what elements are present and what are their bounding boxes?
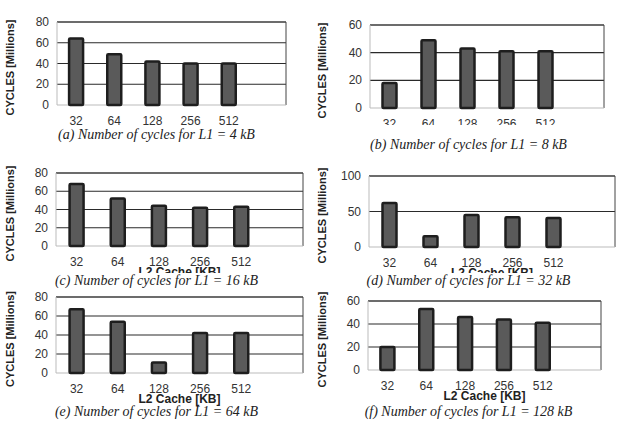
x-tick-label: 512 <box>231 382 251 396</box>
bar-chart-a: 0204060803264128256512CYCLES [Millions]L… <box>0 0 313 125</box>
bar-256 <box>184 64 198 106</box>
chart-panel-a: 0204060803264128256512CYCLES [Millions]L… <box>0 0 313 143</box>
y-tick-label: 0 <box>41 366 48 380</box>
chart-panel-d: 0501003264128256512CYCLES [Millions]L2 C… <box>312 153 625 296</box>
chart-panel-c: 0204060803264128256512CYCLES [Millions]L… <box>0 153 313 296</box>
x-tick-label: 64 <box>108 114 122 125</box>
bar-64 <box>107 54 121 105</box>
x-tick-label: 64 <box>424 256 438 270</box>
x-tick-label: 32 <box>383 117 397 125</box>
bar-chart-f: 02040603264128256512CYCLES [Millions]L2 … <box>312 287 625 407</box>
x-tick-label: 512 <box>535 117 555 125</box>
y-axis-label: CYCLES [Millions] <box>4 19 16 115</box>
y-tick-label: 0 <box>354 240 361 254</box>
x-tick-label: 64 <box>111 255 125 269</box>
y-tick-label: 80 <box>36 15 50 29</box>
y-tick-label: 0 <box>355 101 362 115</box>
bar-chart-c: 0204060803264128256512CYCLES [Millions]L… <box>0 153 313 273</box>
bar-32 <box>383 83 397 108</box>
y-tick-label: 80 <box>35 290 49 304</box>
y-tick-label: 60 <box>35 184 49 198</box>
bar-32 <box>383 203 397 247</box>
x-tick-label: 32 <box>69 114 83 125</box>
y-tick-label: 40 <box>349 46 363 60</box>
bar-512 <box>234 207 248 246</box>
x-tick-label: 64 <box>420 379 434 393</box>
bar-128 <box>458 317 472 370</box>
x-tick-label: 256 <box>496 117 516 125</box>
y-tick-label: 40 <box>36 57 50 71</box>
bar-512 <box>222 64 236 106</box>
y-tick-label: 20 <box>35 221 49 235</box>
bar-256 <box>193 333 207 373</box>
y-axis-label: CYCLES [Millions] <box>4 165 16 261</box>
x-tick-label: 512 <box>533 379 553 393</box>
bar-32 <box>380 347 394 370</box>
y-tick-label: 20 <box>36 77 50 91</box>
y-tick-label: 50 <box>348 205 362 219</box>
chart-panel-b: 02040603264128256512CYCLES [Millions]L2 … <box>312 0 625 143</box>
bar-64 <box>111 199 125 246</box>
x-axis-label: L2 Cache [KB] <box>130 124 212 125</box>
y-tick-label: 0 <box>41 239 48 253</box>
y-tick-label: 20 <box>35 347 49 361</box>
y-tick-label: 20 <box>349 73 363 87</box>
bar-64 <box>111 322 125 373</box>
y-tick-label: 0 <box>42 98 49 112</box>
bar-256 <box>193 208 207 246</box>
bar-64 <box>424 236 438 247</box>
x-tick-label: 512 <box>219 114 239 125</box>
chart-caption-b: (b) Number of cycles for L1 = 8 kB <box>312 137 625 153</box>
bar-256 <box>506 217 520 247</box>
chart-panel-e: 0204060803264128256512CYCLES [Millions]L… <box>0 287 313 430</box>
x-axis-label: L2 Cache [KB] <box>138 265 220 273</box>
y-tick-label: 60 <box>36 36 50 50</box>
bar-512 <box>539 51 553 108</box>
y-tick-label: 40 <box>35 328 49 342</box>
x-tick-label: 512 <box>543 256 563 270</box>
bar-chart-e: 0204060803264128256512CYCLES [Millions]L… <box>0 287 313 407</box>
bar-64 <box>419 309 433 370</box>
bar-128 <box>152 206 166 246</box>
bar-64 <box>422 40 436 108</box>
bar-128 <box>465 215 479 247</box>
y-tick-label: 60 <box>35 309 49 323</box>
bar-128 <box>145 61 159 105</box>
y-tick-label: 40 <box>347 317 361 331</box>
y-tick-label: 40 <box>35 203 49 217</box>
chart-caption-e: (e) Number of cycles for L1 = 64 kB <box>0 404 313 420</box>
y-tick-label: 80 <box>35 166 49 180</box>
x-tick-label: 64 <box>111 382 125 396</box>
bar-256 <box>497 319 511 370</box>
bar-chart-d: 0501003264128256512CYCLES [Millions]L2 C… <box>312 153 625 273</box>
x-tick-label: 32 <box>383 256 397 270</box>
chart-panel-f: 02040603264128256512CYCLES [Millions]L2 … <box>312 287 625 430</box>
bar-32 <box>70 309 84 373</box>
chart-caption-a: (a) Number of cycles for L1 = 4 kB <box>0 127 313 143</box>
bar-128 <box>461 49 475 108</box>
y-axis-label: CYCLES [Millions] <box>316 291 328 387</box>
chart-caption-f: (f) Number of cycles for L1 = 128 kB <box>312 404 625 420</box>
y-tick-label: 60 <box>349 18 363 32</box>
y-tick-label: 100 <box>341 169 361 183</box>
bar-256 <box>500 51 514 108</box>
bar-32 <box>69 39 83 105</box>
x-tick-label: 128 <box>457 117 477 125</box>
bar-512 <box>536 323 550 370</box>
bar-512 <box>234 333 248 373</box>
y-axis-label: CYCLES [Millions] <box>316 22 328 118</box>
bar-32 <box>70 184 84 246</box>
y-tick-label: 0 <box>353 363 360 377</box>
x-axis-label: L2 Cache [KB] <box>451 266 533 273</box>
x-tick-label: 32 <box>381 379 395 393</box>
x-axis-label: L2 Cache [KB] <box>443 389 525 403</box>
x-tick-label: 512 <box>231 255 251 269</box>
y-axis-label: CYCLES [Millions] <box>316 167 328 263</box>
y-tick-label: 20 <box>347 340 361 354</box>
bar-512 <box>547 218 561 247</box>
x-tick-label: 64 <box>422 117 436 125</box>
bar-128 <box>152 363 166 373</box>
x-tick-label: 32 <box>70 382 84 396</box>
bar-chart-b: 02040603264128256512CYCLES [Millions]L2 … <box>312 0 625 125</box>
y-tick-label: 60 <box>347 294 361 308</box>
